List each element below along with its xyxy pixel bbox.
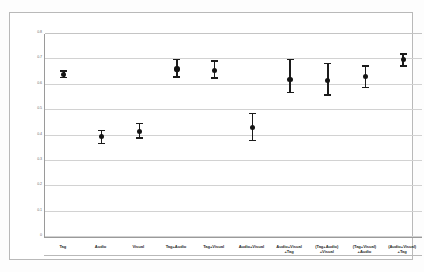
error-bar-cap-upper [173,59,180,61]
error-bar-cap-lower [173,76,180,78]
error-bar-cap-upper [211,60,218,62]
data-point-marker[interactable] [174,66,179,71]
plot-area: 0.80.70.60.50.40.30.20.10 [44,34,422,238]
data-point-marker[interactable] [99,134,104,139]
x-axis-label-band-divider [44,255,422,256]
gridline-0.7: 0.7 [45,58,422,59]
y-axis-tick-label: 0.2 [37,183,42,187]
data-point-marker[interactable] [363,74,368,79]
error-bar-cap-lower [60,77,67,79]
y-axis-tick-label: 0.3 [37,158,42,162]
error-bar-cap-upper [249,113,256,115]
x-axis-label: (Audio+Visual) +Tag [380,244,424,255]
data-point-marker[interactable] [401,57,406,62]
error-bar-cap-upper [287,59,294,61]
y-axis-tick-label: 0.7 [37,57,42,61]
error-bar-cap-upper [324,63,331,65]
data-point-marker[interactable] [325,78,330,83]
gridline-0.8: 0.8 [45,33,422,34]
error-bar-cap-lower [211,77,218,79]
error-bar-cap-upper [98,130,105,132]
y-axis-tick-label: 0.1 [37,209,42,213]
error-bar-cap-upper [362,65,369,67]
gridline-0.2: 0.2 [45,185,422,186]
error-bar-cap-lower [362,87,369,89]
y-axis-tick-label: 0.4 [37,133,42,137]
error-bar-cap-lower [98,143,105,145]
data-point-marker[interactable] [287,77,292,82]
data-point-marker[interactable] [250,125,255,130]
error-bar-cap-lower [400,65,407,67]
error-bar-cap-lower [287,92,294,94]
page-background: 0.80.70.60.50.40.30.20.10 TagAudioVisual… [0,0,424,272]
error-bar-cap-upper [400,53,407,55]
y-axis-tick-label: 0.8 [37,31,42,35]
chart-frame: 0.80.70.60.50.40.30.20.10 TagAudioVisual… [9,12,413,260]
gridline-0.3: 0.3 [45,160,422,161]
error-bar-cap-lower [249,140,256,142]
gridline-0.5: 0.5 [45,109,422,110]
data-point-marker[interactable] [212,68,217,73]
y-axis-tick-label: 0 [40,234,42,238]
y-axis-tick-label: 0.6 [37,82,42,86]
error-bar-cap-lower [136,137,143,139]
x-axis-labels: TagAudioVisualTag+AudioTag+VisualAudio+V… [44,239,422,269]
error-bar-cap-upper [136,123,143,125]
gridline-0: 0 [45,236,422,237]
y-axis-tick-label: 0.5 [37,107,42,111]
error-bar-cap-lower [324,94,331,96]
gridline-0.1: 0.1 [45,211,422,212]
